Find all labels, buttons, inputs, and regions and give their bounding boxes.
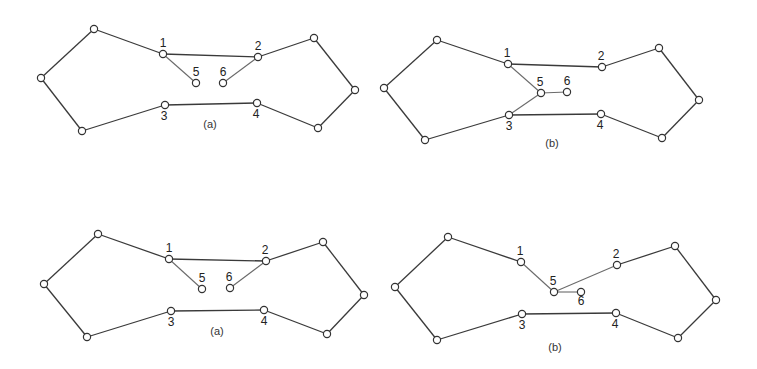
node-circle <box>597 110 604 117</box>
node-circle <box>598 63 605 70</box>
node-circle <box>563 88 570 95</box>
node-label: 2 <box>598 49 605 63</box>
node-circle <box>94 230 101 237</box>
edge-line <box>165 103 257 105</box>
edge-line <box>44 234 98 284</box>
edge-line <box>395 237 448 287</box>
node-circle <box>262 257 269 264</box>
edge-line <box>522 313 616 314</box>
edge-line <box>659 48 699 100</box>
panel-top-left: 125634(a) <box>37 25 358 134</box>
edge-line <box>41 78 82 131</box>
edge-line <box>601 114 662 138</box>
node-circle <box>671 242 678 249</box>
node-circle <box>78 127 85 134</box>
node-circle <box>219 79 226 86</box>
node-label: 1 <box>517 244 524 258</box>
node-circle <box>674 334 681 341</box>
edge-line <box>327 295 364 334</box>
node-circle <box>314 124 321 131</box>
edge-line <box>616 313 678 338</box>
node-label: 2 <box>613 247 620 261</box>
node-circle <box>260 306 267 313</box>
node-label: 6 <box>564 74 571 88</box>
node-label: 5 <box>199 271 206 285</box>
node-circle <box>537 89 544 96</box>
node-circle <box>310 34 317 41</box>
node-label: 4 <box>612 317 619 331</box>
node-circle <box>165 255 172 262</box>
edge-line <box>257 103 318 128</box>
panel-caption: (b) <box>545 137 558 149</box>
node-circle <box>90 25 97 32</box>
edge-line <box>169 259 266 261</box>
edge-line <box>675 246 716 300</box>
node-circle <box>655 44 662 51</box>
node-circle <box>360 291 367 298</box>
node-label: 6 <box>578 294 585 308</box>
node-circle <box>518 310 525 317</box>
node-label: 5 <box>193 65 200 79</box>
inner-edge-line <box>509 93 541 115</box>
node-circle <box>253 99 260 106</box>
node-circle <box>198 285 205 292</box>
edge-line <box>314 38 355 90</box>
node-circle <box>612 309 619 316</box>
panel-caption: (a) <box>203 118 216 130</box>
panel-caption: (b) <box>548 341 561 353</box>
node-circle <box>695 96 702 103</box>
node-circle <box>613 261 620 268</box>
edge-line <box>98 234 169 259</box>
node-circle <box>380 84 387 91</box>
node-circle <box>504 60 511 67</box>
edge-line <box>384 88 425 140</box>
node-circle <box>433 336 440 343</box>
node-label: 3 <box>519 318 526 332</box>
node-label: 5 <box>550 274 557 288</box>
node-label: 1 <box>160 36 167 50</box>
node-circle <box>167 307 174 314</box>
graph-diagram: 125634(a) 125634(b) 125634(a) 125634(b) <box>0 0 757 369</box>
node-label: 3 <box>168 315 175 329</box>
edge-line <box>318 90 355 128</box>
node-label: 3 <box>161 109 168 123</box>
edge-line <box>437 40 508 64</box>
node-label: 6 <box>220 65 227 79</box>
edge-line <box>171 310 264 311</box>
node-circle <box>254 53 261 60</box>
edge-line <box>602 48 659 67</box>
edge-line <box>94 29 163 54</box>
edge-line <box>323 242 364 295</box>
inner-edge-line <box>230 261 266 288</box>
node-circle <box>444 233 451 240</box>
edge-line <box>508 64 602 67</box>
node-label: 5 <box>537 75 544 89</box>
node-circle <box>323 330 330 337</box>
edge-line <box>264 310 327 334</box>
panel-bottom-right: 125634(b) <box>391 233 719 353</box>
edge-line <box>82 105 165 131</box>
node-label: 4 <box>597 118 604 132</box>
edge-line <box>678 300 716 338</box>
node-circle <box>517 258 524 265</box>
node-label: 2 <box>262 243 269 257</box>
node-circle <box>433 36 440 43</box>
inner-edge-line <box>163 54 196 83</box>
node-circle <box>37 74 44 81</box>
edge-line <box>163 54 258 57</box>
node-circle <box>391 283 398 290</box>
node-circle <box>40 280 47 287</box>
edge-line <box>266 242 323 261</box>
node-circle <box>226 284 233 291</box>
node-circle <box>505 111 512 118</box>
node-circle <box>159 50 166 57</box>
node-circle <box>550 288 557 295</box>
edge-line <box>425 115 509 140</box>
edge-line <box>258 38 314 57</box>
panel-top-right: 125634(b) <box>380 36 702 149</box>
edge-line <box>384 40 437 88</box>
node-label: 3 <box>506 119 513 133</box>
node-circle <box>83 333 90 340</box>
edge-line <box>662 100 699 138</box>
edge-line <box>395 287 437 340</box>
